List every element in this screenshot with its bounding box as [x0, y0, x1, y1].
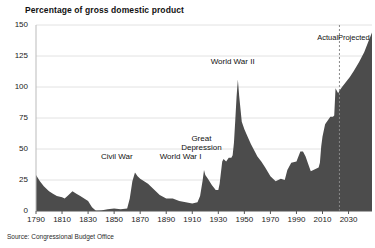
source-note: Source: Congressional Budget Office [7, 233, 114, 240]
annotation-label: GreatDepression [161, 134, 241, 153]
y-tick-label: 25 [0, 175, 28, 184]
chart-title: Percentage of gross domestic product [25, 5, 184, 15]
y-tick-label: 150 [0, 20, 28, 29]
y-tick-label: 0 [0, 206, 28, 215]
y-tick-label: 125 [0, 51, 28, 60]
annotation-label: World War II [193, 57, 273, 67]
x-tick-label: 2030 [329, 215, 369, 224]
y-tick-label: 50 [0, 144, 28, 153]
period-label-projected: Projected [332, 33, 375, 42]
y-tick-label: 75 [0, 113, 28, 122]
y-tick-label: 100 [0, 82, 28, 91]
annotation-label: World War I [141, 152, 221, 162]
plot-area: 0255075100125150 17901810183018501870189… [0, 18, 375, 214]
chart-figure: Percentage of gross domestic product 025… [0, 0, 375, 248]
debt-area-chart [0, 18, 375, 214]
